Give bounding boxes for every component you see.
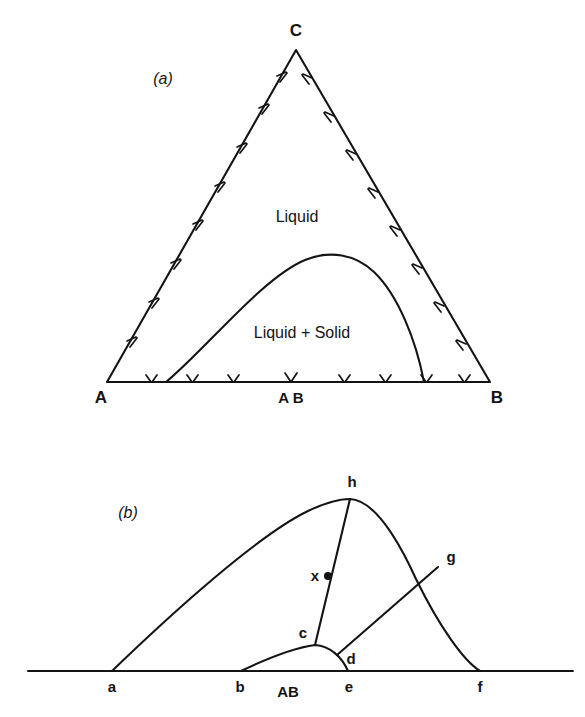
large-dome-curve <box>112 499 480 671</box>
marked-point-x-dot <box>324 572 332 580</box>
base-compound-label-a: A B <box>278 389 303 406</box>
panel-a-tag: (a) <box>153 70 173 87</box>
point-label-c: c <box>299 624 307 641</box>
point-label-e: e <box>345 678 353 695</box>
point-label-f: f <box>478 678 484 695</box>
vertex-label-a: A <box>95 388 107 407</box>
vertex-label-c: C <box>290 21 302 40</box>
point-label-d: d <box>346 650 355 667</box>
point-label-a: a <box>108 678 117 695</box>
region-label-liquid-solid: Liquid + Solid <box>254 324 351 341</box>
panel-b-group: (b) a b e f c d g h x AB <box>28 473 573 700</box>
vertex-label-b: B <box>491 388 503 407</box>
region-label-liquid: Liquid <box>276 208 319 225</box>
panel-b-tag: (b) <box>118 504 138 521</box>
point-label-h: h <box>347 473 356 490</box>
tie-line-d-g <box>337 567 438 655</box>
point-label-x: x <box>311 567 320 584</box>
phase-diagram-svg: (a) <box>0 0 585 717</box>
point-label-b: b <box>235 678 244 695</box>
point-label-g: g <box>446 548 455 565</box>
base-compound-label-b: AB <box>277 683 299 700</box>
right-edge-hatches <box>302 74 466 350</box>
liquidus-dome-curve-a <box>166 255 424 382</box>
figure-root: (a) <box>0 0 585 717</box>
small-dome-curve <box>241 645 348 671</box>
tie-line-c-h <box>315 499 350 645</box>
panel-a-group: (a) <box>95 21 503 407</box>
